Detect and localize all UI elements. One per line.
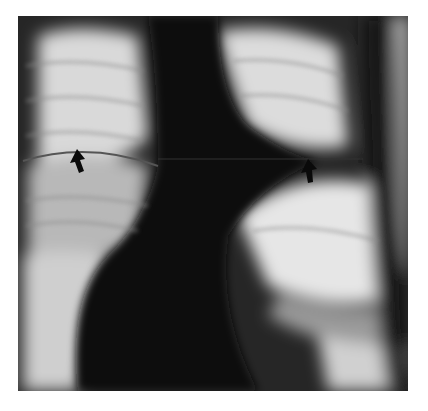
radiograph-rendering	[18, 16, 408, 391]
radiograph-image: Frontal chest radiograph with two black …	[18, 16, 408, 391]
